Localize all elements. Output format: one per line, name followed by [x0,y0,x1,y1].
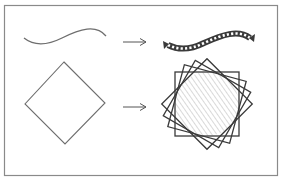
output-rotated-squares-star [162,59,253,150]
diagram-canvas [0,0,283,181]
